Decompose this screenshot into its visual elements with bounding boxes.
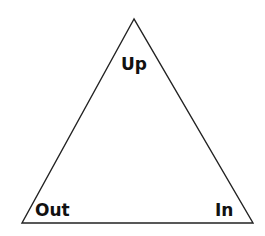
label-up: Up [121, 56, 147, 73]
label-in: In [215, 202, 233, 219]
triangle-outline [22, 19, 253, 223]
label-out: Out [35, 202, 70, 219]
